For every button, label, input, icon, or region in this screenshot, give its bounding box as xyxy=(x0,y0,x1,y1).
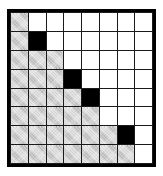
grid-row xyxy=(11,145,153,164)
grid-cell-1-1 xyxy=(11,13,29,32)
grid-cell-6-7 xyxy=(117,107,135,126)
grid-cell-3-1 xyxy=(11,50,29,69)
grid-row xyxy=(11,69,153,88)
grid-cell-2-2 xyxy=(28,31,46,50)
grid-cell-6-3 xyxy=(46,107,64,126)
grid-cell-6-6 xyxy=(99,107,117,126)
grid-cell-3-2 xyxy=(28,50,46,69)
grid-cell-6-4 xyxy=(64,107,82,126)
grid-cell-1-2 xyxy=(28,13,46,32)
grid-cell-3-3 xyxy=(46,50,64,69)
grid-cell-2-7 xyxy=(117,31,135,50)
grid-cell-1-7 xyxy=(117,13,135,32)
grid-cell-8-6 xyxy=(99,145,117,164)
grid-body xyxy=(11,13,153,164)
grid-cell-2-3 xyxy=(46,31,64,50)
grid-cell-4-3 xyxy=(46,69,64,88)
grid-cell-8-1 xyxy=(11,145,29,164)
grid-cell-3-5 xyxy=(82,50,100,69)
grid-cell-1-6 xyxy=(99,13,117,32)
grid-cell-4-2 xyxy=(28,69,46,88)
grid-cell-1-8 xyxy=(135,13,153,32)
grid-cell-2-1 xyxy=(11,31,29,50)
grid-row xyxy=(11,50,153,69)
grid-row xyxy=(11,126,153,145)
grid-cell-4-8 xyxy=(135,69,153,88)
grid-cell-4-4 xyxy=(64,69,82,88)
grid-cell-7-5 xyxy=(82,126,100,145)
grid-cell-1-3 xyxy=(46,13,64,32)
grid-cell-4-5 xyxy=(82,69,100,88)
grid-cell-2-6 xyxy=(99,31,117,50)
grid-cell-6-5 xyxy=(82,107,100,126)
grid-row xyxy=(11,107,153,126)
grid-cell-7-4 xyxy=(64,126,82,145)
grid-cell-5-7 xyxy=(117,88,135,107)
grid-matrix xyxy=(10,12,153,164)
grid-cell-5-1 xyxy=(11,88,29,107)
grid-cell-2-8 xyxy=(135,31,153,50)
grid-cell-8-8 xyxy=(135,145,153,164)
grid-cell-8-7 xyxy=(117,145,135,164)
grid-cell-3-7 xyxy=(117,50,135,69)
grid-cell-4-1 xyxy=(11,69,29,88)
grid-cell-2-5 xyxy=(82,31,100,50)
grid-cell-6-1 xyxy=(11,107,29,126)
grid-cell-8-2 xyxy=(28,145,46,164)
grid-cell-7-1 xyxy=(11,126,29,145)
grid-cell-4-6 xyxy=(99,69,117,88)
grid-cell-5-2 xyxy=(28,88,46,107)
grid-cell-2-4 xyxy=(64,31,82,50)
grid-cell-1-5 xyxy=(82,13,100,32)
grid-cell-3-8 xyxy=(135,50,153,69)
grid-cell-7-2 xyxy=(28,126,46,145)
grid-row xyxy=(11,13,153,32)
grid-cell-7-6 xyxy=(99,126,117,145)
grid-cell-3-4 xyxy=(64,50,82,69)
grid-cell-5-3 xyxy=(46,88,64,107)
grid-cell-7-8 xyxy=(135,126,153,145)
grid-cell-6-2 xyxy=(28,107,46,126)
grid-cell-8-3 xyxy=(46,145,64,164)
grid-cell-7-3 xyxy=(46,126,64,145)
diagram-canvas xyxy=(0,0,163,176)
grid-frame xyxy=(7,9,156,167)
grid-cell-4-7 xyxy=(117,69,135,88)
grid-cell-5-5 xyxy=(82,88,100,107)
grid-cell-1-4 xyxy=(64,13,82,32)
grid-row xyxy=(11,88,153,107)
grid-cell-3-6 xyxy=(99,50,117,69)
grid-cell-7-7 xyxy=(117,126,135,145)
grid-cell-8-5 xyxy=(82,145,100,164)
grid-row xyxy=(11,31,153,50)
grid-cell-8-4 xyxy=(64,145,82,164)
grid-cell-5-6 xyxy=(99,88,117,107)
grid-cell-6-8 xyxy=(135,107,153,126)
grid-cell-5-4 xyxy=(64,88,82,107)
grid-cell-5-8 xyxy=(135,88,153,107)
